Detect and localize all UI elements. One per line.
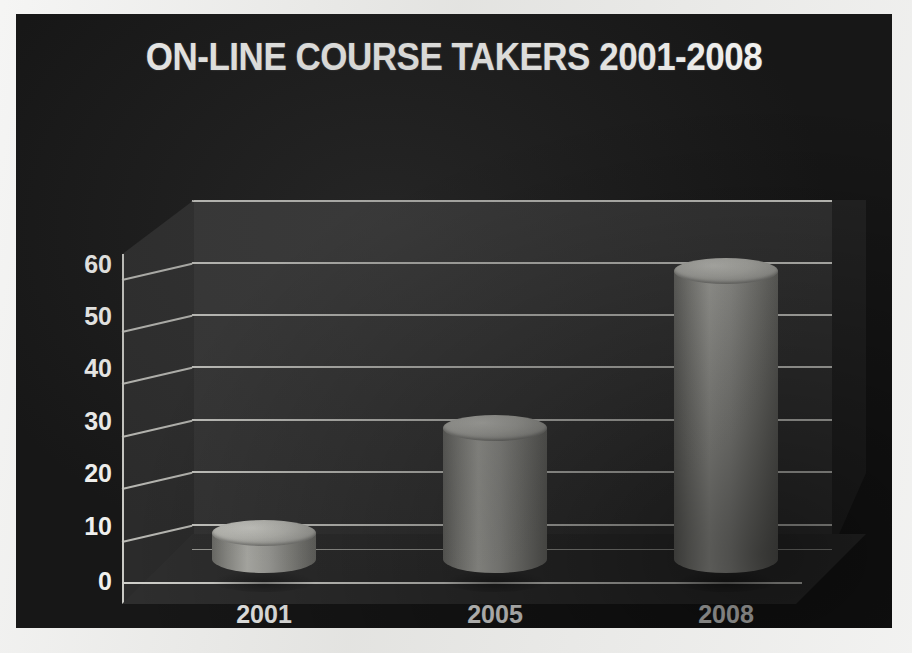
- y-tick-60: 60: [16, 252, 112, 277]
- bar-2008-cap: [674, 258, 778, 284]
- bar-2001[interactable]: [212, 520, 316, 582]
- y-tick-0: 0: [16, 569, 112, 594]
- y-tick-50: 50: [16, 304, 112, 329]
- bar-2005[interactable]: [443, 415, 547, 582]
- plot-right-wall: [832, 200, 866, 550]
- chart-title: ON-LINE COURSE TAKERS 2001-2008: [106, 34, 802, 80]
- y-tick-40: 40: [16, 356, 112, 381]
- x-tick-2005: 2005: [467, 599, 523, 628]
- bar-2001-shadow: [212, 570, 316, 592]
- bar-2008-shadow: [674, 570, 778, 592]
- y-tick-10: 10: [16, 514, 112, 539]
- x-tick-2008: 2008: [698, 599, 754, 628]
- bar-2008[interactable]: [674, 258, 778, 582]
- bar-2005-body: [443, 428, 547, 573]
- y-axis-labels: 60 50 40 30 20 10 0: [16, 14, 112, 628]
- chart-canvas: ON-LINE COURSE TAKERS 2001-2008: [16, 14, 892, 628]
- bar-2008-body: [674, 271, 778, 573]
- x-axis-labels: 2001 2005 2008: [122, 599, 866, 628]
- x-tick-2001: 2001: [236, 599, 292, 628]
- bar-2005-cap: [443, 415, 547, 441]
- plot-area-3d: [16, 14, 892, 628]
- bar-2001-cap: [212, 520, 316, 546]
- y-tick-30: 30: [16, 409, 112, 434]
- y-tick-20: 20: [16, 461, 112, 486]
- bar-2005-shadow: [443, 570, 547, 592]
- y-axis-line: [122, 254, 124, 604]
